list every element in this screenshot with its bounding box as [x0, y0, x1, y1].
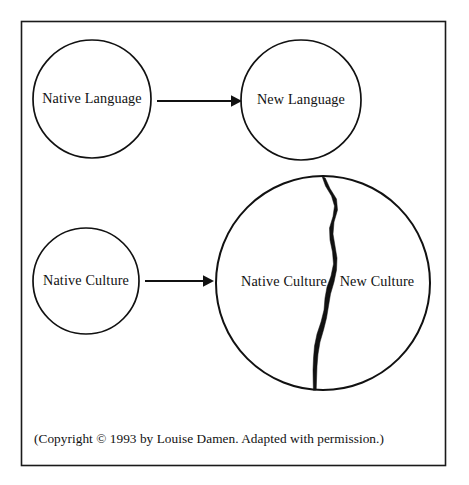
new-language-label: New Language — [257, 91, 345, 107]
diagram-canvas: Native Language New Language Native Cult… — [0, 0, 469, 485]
split-native-culture-label: Native Culture — [241, 273, 327, 289]
culture-arrow — [145, 275, 214, 287]
native-language-label: Native Language — [42, 90, 142, 106]
copyright-caption: (Copyright © 1993 by Louise Damen. Adapt… — [34, 431, 384, 446]
language-arrow — [157, 95, 242, 107]
figure-container: Native Language New Language Native Cult… — [0, 0, 469, 485]
native-culture-label: Native Culture — [43, 272, 129, 288]
split-new-culture-label: New Culture — [340, 273, 415, 289]
